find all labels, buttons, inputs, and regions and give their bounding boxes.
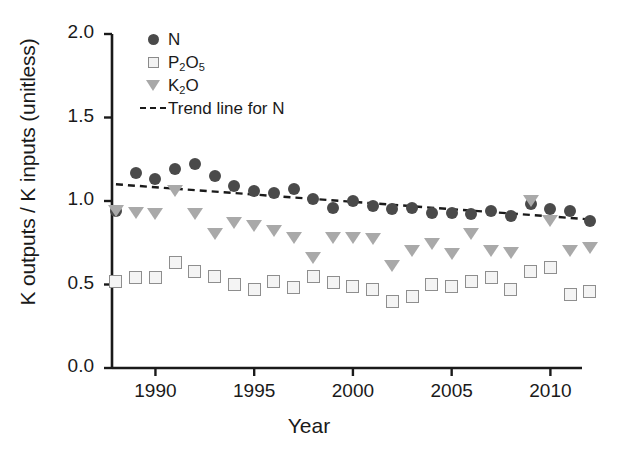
data-point-p2o5	[327, 276, 340, 289]
data-point-n	[446, 207, 458, 219]
data-point-k2o	[463, 228, 479, 240]
data-point-n	[426, 207, 438, 219]
data-point-p2o5	[287, 281, 300, 294]
data-point-p2o5	[307, 270, 320, 283]
data-point-k2o	[266, 225, 282, 237]
data-point-k2o	[108, 205, 124, 217]
data-point-n	[209, 170, 221, 182]
legend-label-n: N	[168, 31, 180, 48]
data-point-k2o	[147, 208, 163, 220]
legend-item-k2o: K2O	[138, 74, 285, 96]
data-point-p2o5	[208, 270, 221, 283]
data-point-k2o	[444, 248, 460, 260]
data-point-k2o	[365, 233, 381, 245]
data-point-k2o	[384, 260, 400, 272]
data-point-n	[367, 200, 379, 212]
data-point-k2o	[483, 245, 499, 257]
data-point-p2o5	[583, 285, 596, 298]
data-point-k2o	[582, 242, 598, 254]
data-point-k2o	[128, 207, 144, 219]
data-point-p2o5	[267, 275, 280, 288]
data-point-k2o	[226, 217, 242, 229]
data-point-k2o	[562, 245, 578, 257]
data-point-k2o	[503, 247, 519, 259]
legend-label-k2o: K2O	[168, 77, 199, 94]
data-point-n	[288, 183, 300, 195]
data-point-k2o	[167, 185, 183, 197]
y-tick-label: 2.0	[48, 21, 94, 43]
data-point-p2o5	[129, 271, 142, 284]
filled-circle-icon	[138, 34, 168, 45]
data-point-p2o5	[188, 265, 201, 278]
x-tick-label: 2005	[422, 380, 482, 402]
data-point-p2o5	[149, 271, 162, 284]
data-point-k2o	[286, 232, 302, 244]
legend-label-p2o5: P2O5	[168, 54, 205, 71]
y-tick-label: 1.5	[48, 105, 94, 127]
data-point-p2o5	[465, 275, 478, 288]
data-point-p2o5	[169, 256, 182, 269]
data-point-p2o5	[564, 288, 577, 301]
y-tick-label: 0.0	[48, 355, 94, 377]
data-point-n	[584, 215, 596, 227]
data-point-p2o5	[425, 278, 438, 291]
legend-item-n: N	[138, 28, 285, 50]
chart-legend: N P2O5 K2O Trend line for N	[138, 28, 285, 120]
data-point-p2o5	[504, 283, 517, 296]
data-point-p2o5	[109, 275, 122, 288]
data-point-k2o	[424, 238, 440, 250]
data-point-p2o5	[386, 295, 399, 308]
data-point-k2o	[246, 220, 262, 232]
data-point-p2o5	[406, 290, 419, 303]
data-point-p2o5	[524, 265, 537, 278]
data-point-k2o	[305, 252, 321, 264]
data-point-p2o5	[485, 271, 498, 284]
data-point-p2o5	[366, 283, 379, 296]
data-point-k2o	[325, 232, 341, 244]
data-point-p2o5	[248, 283, 261, 296]
y-tick-label: 0.5	[48, 272, 94, 294]
data-point-k2o	[404, 245, 420, 257]
data-point-p2o5	[228, 278, 241, 291]
data-point-k2o	[523, 195, 539, 207]
open-square-icon	[138, 57, 168, 68]
data-point-p2o5	[445, 280, 458, 293]
data-point-n	[406, 202, 418, 214]
data-point-n	[268, 187, 280, 199]
data-point-p2o5	[544, 261, 557, 274]
legend-item-p2o5: P2O5	[138, 51, 285, 73]
data-point-n	[130, 167, 142, 179]
x-tick-label: 1995	[224, 380, 284, 402]
data-point-n	[347, 195, 359, 207]
data-point-k2o	[345, 232, 361, 244]
data-point-k2o	[187, 208, 203, 220]
filled-triangle-icon	[138, 80, 168, 91]
data-point-p2o5	[346, 280, 359, 293]
y-tick-label: 1.0	[48, 188, 94, 210]
data-point-n	[505, 210, 517, 222]
data-point-n	[327, 202, 339, 214]
data-point-k2o	[542, 215, 558, 227]
x-tick-label: 1990	[125, 380, 185, 402]
legend-label-trend: Trend line for N	[168, 100, 285, 117]
data-point-k2o	[207, 228, 223, 240]
x-tick-label: 2010	[520, 380, 580, 402]
chart-figure: K outputs / K inputs (unitless) Year 0.0…	[0, 0, 618, 456]
legend-item-trend: Trend line for N	[138, 97, 285, 119]
x-tick-label: 2000	[323, 380, 383, 402]
dashed-line-icon	[138, 107, 168, 109]
